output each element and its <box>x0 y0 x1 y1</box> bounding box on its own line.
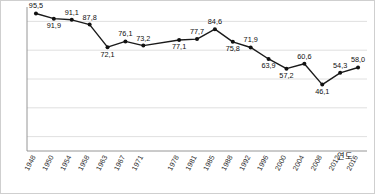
x-axis-tick-label: 1954 <box>58 154 73 172</box>
data-point-label: 75,8 <box>226 44 240 53</box>
series-line <box>36 13 358 84</box>
data-point-marker <box>70 18 74 22</box>
data-point-marker <box>106 45 110 49</box>
chart-container: 95,591,991,187,872,176,173,277,177,784,6… <box>0 0 375 194</box>
data-point-labels: 95,591,991,187,872,176,173,277,177,784,6… <box>29 1 365 96</box>
data-point-label: 71,9 <box>244 35 258 44</box>
data-point-label: 54,3 <box>333 61 347 70</box>
x-axis-tick-label: 2000 <box>273 154 288 172</box>
x-axis-tick-label: 1988 <box>219 154 234 172</box>
data-point-marker <box>302 62 306 66</box>
x-axis-title: 연도 <box>337 152 353 161</box>
data-point-label: 63,9 <box>261 61 275 70</box>
data-point-label: 77,1 <box>172 42 186 51</box>
x-axis-tick-label: 1996 <box>255 154 270 172</box>
x-axis-tick-label: 1958 <box>76 154 91 172</box>
data-point-marker <box>284 67 288 71</box>
x-axis-tick-label: 1967 <box>112 154 127 172</box>
data-point-label: 76,1 <box>118 29 132 38</box>
data-point-marker <box>338 71 342 75</box>
data-point-label: 87,8 <box>83 13 97 22</box>
x-axis-tick-label: 1963 <box>94 154 109 172</box>
data-point-label: 84,6 <box>208 17 222 26</box>
data-point-label: 73,2 <box>136 34 150 43</box>
x-axis-tick-label: 1985 <box>201 154 216 172</box>
data-point-label: 95,5 <box>29 1 43 10</box>
data-point-marker <box>141 44 145 48</box>
data-point-marker <box>213 27 217 31</box>
data-point-label: 91,9 <box>47 21 61 30</box>
data-point-marker <box>320 83 324 87</box>
x-axis-tick-label: 1950 <box>40 154 55 172</box>
data-point-marker <box>88 23 92 27</box>
data-point-marker <box>34 11 38 15</box>
data-point-marker <box>249 45 253 49</box>
data-point-label: 72,1 <box>100 50 114 59</box>
data-point-label: 77,7 <box>190 27 204 36</box>
data-point-label: 60,6 <box>297 52 311 61</box>
x-axis-tick-label: 1978 <box>165 154 180 172</box>
data-point-marker <box>231 40 235 44</box>
data-point-label: 57,2 <box>279 71 293 80</box>
x-axis-tick-label: 2004 <box>291 154 306 172</box>
x-axis-tick-label: 1992 <box>237 154 252 172</box>
x-axis-tick-labels: 1948195019541958196319671971197819811985… <box>22 154 360 172</box>
x-axis-tick-label: 1981 <box>183 154 198 172</box>
data-point-marker <box>123 39 127 43</box>
x-axis-tick-label: 1971 <box>130 154 145 172</box>
data-point-marker <box>356 65 360 69</box>
data-point-marker <box>52 17 56 21</box>
data-point-marker <box>177 38 181 42</box>
data-point-label: 91,1 <box>65 8 79 17</box>
data-point-marker <box>267 57 271 61</box>
data-point-label: 46,1 <box>315 87 329 96</box>
data-point-label: 58,0 <box>351 55 365 64</box>
x-axis-tick-label: 2008 <box>309 154 324 172</box>
data-point-marker <box>195 37 199 41</box>
x-axis-tick-label: 1948 <box>22 154 37 172</box>
line-chart: 95,591,991,187,872,176,173,277,177,784,6… <box>1 1 375 194</box>
